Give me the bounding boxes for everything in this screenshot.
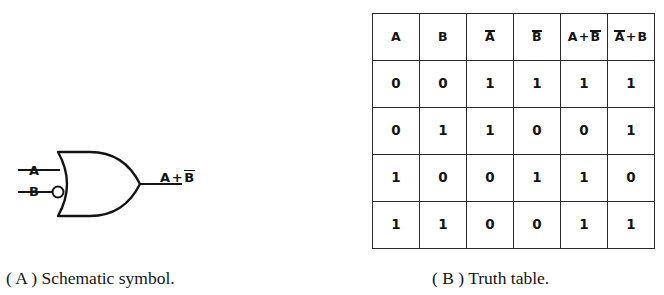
header-4-op: +	[578, 29, 591, 44]
table-header-row: A B A B A+B A+B	[373, 14, 655, 61]
caption-b: ( B ) Truth table.	[432, 270, 549, 288]
cell: 1	[561, 155, 608, 202]
cell: 1	[467, 108, 514, 155]
cell: 0	[514, 108, 561, 155]
figure-b-truth-table: A B A B A+B A+B 0 0	[372, 13, 655, 249]
cell: 1	[561, 202, 608, 249]
header-cell-b: B	[420, 14, 467, 61]
header-cell-a-not: A	[467, 14, 514, 61]
header-4-left: A	[568, 29, 578, 44]
header-cell-b-not: B	[514, 14, 561, 61]
cell: 0	[561, 108, 608, 155]
cell: 0	[373, 108, 420, 155]
cell: 1	[467, 61, 514, 108]
table-row: 1 0 0 1 1 0	[373, 155, 655, 202]
header-label-a-or-bnot: A+B	[568, 29, 601, 44]
cell: 1	[608, 61, 655, 108]
caption-a: ( A ) Schematic symbol.	[6, 270, 175, 288]
cell: 0	[467, 155, 514, 202]
cell: 1	[514, 61, 561, 108]
figure-a-schematic: A B A+B ( A ) Schematic symbol.	[0, 0, 340, 295]
cell: 0	[420, 155, 467, 202]
header-cell-a-or-bnot: A+B	[561, 14, 608, 61]
cell: 1	[420, 202, 467, 249]
header-5-left-overbar: A	[615, 30, 625, 44]
table-row: 1 1 0 0 1 1	[373, 202, 655, 249]
cell: 0	[467, 202, 514, 249]
header-label-b: B	[438, 29, 448, 44]
output-term-1: A	[160, 170, 171, 185]
cell: 1	[561, 61, 608, 108]
header-label-a: A	[391, 29, 401, 44]
output-expression-label: A+B	[160, 170, 195, 184]
header-4-right-overbar: B	[590, 30, 600, 44]
header-label-b-not: B	[532, 30, 542, 44]
or-gate-body	[58, 152, 140, 216]
header-5-op: +	[625, 29, 638, 44]
cell: 1	[608, 108, 655, 155]
cell: 1	[420, 108, 467, 155]
cell: 0	[373, 61, 420, 108]
input-a-label: A	[29, 164, 40, 177]
output-operator: +	[171, 170, 185, 185]
cell: 1	[514, 155, 561, 202]
cell: 0	[608, 155, 655, 202]
truth-table: A B A B A+B A+B 0 0	[372, 13, 655, 249]
cell: 1	[608, 202, 655, 249]
cell: 0	[420, 61, 467, 108]
inversion-bubble-icon	[53, 187, 64, 198]
table-row: 0 0 1 1 1 1	[373, 61, 655, 108]
header-label-a-not: A	[485, 30, 495, 44]
header-5-right: B	[637, 29, 647, 44]
header-cell-anot-or-b: A+B	[608, 14, 655, 61]
header-label-anot-or-b: A+B	[615, 29, 648, 44]
header-cell-a: A	[373, 14, 420, 61]
table-row: 0 1 1 0 0 1	[373, 108, 655, 155]
input-b-label: B	[29, 185, 39, 198]
cell: 1	[373, 202, 420, 249]
output-term-2-overbar: B	[184, 170, 195, 184]
cell: 1	[373, 155, 420, 202]
cell: 0	[514, 202, 561, 249]
